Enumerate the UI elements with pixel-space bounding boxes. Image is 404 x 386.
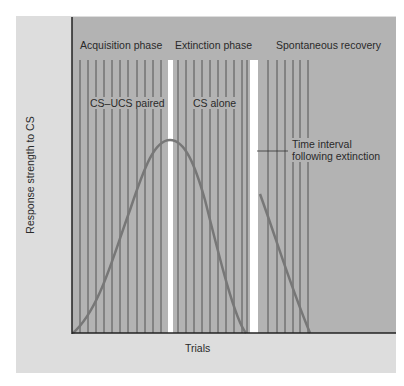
chart-svg <box>0 0 404 386</box>
x-axis-label: Trials <box>185 342 210 354</box>
label-following-extinction: following extinction <box>292 150 380 162</box>
response-curve-main <box>73 140 246 333</box>
label-acquisition-phase: Acquisition phase <box>80 39 162 51</box>
label-cs-alone: CS alone <box>192 97 237 109</box>
label-time-interval: Time interval <box>292 138 352 150</box>
label-spontaneous-recovery: Spontaneous recovery <box>276 39 381 51</box>
gap-time-interval <box>250 60 258 333</box>
label-cs-ucs-paired: CS–UCS paired <box>89 97 166 109</box>
gap-acq-ext <box>168 60 173 333</box>
y-axis-label: Response strength to CS <box>24 116 36 233</box>
label-extinction-phase: Extinction phase <box>175 39 252 51</box>
